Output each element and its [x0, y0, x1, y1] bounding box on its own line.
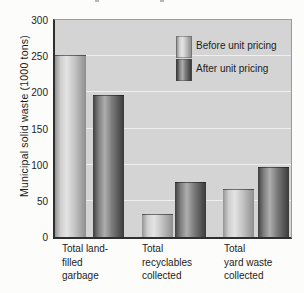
bar-after-2: [175, 182, 206, 237]
legend-swatch-before: [176, 36, 192, 58]
y-tick-label-250: 250: [18, 51, 48, 62]
bar-after-3: [258, 167, 289, 237]
cropped-text-artifact: [95, 0, 99, 2]
category-label-1: Total land- filled garbage: [62, 242, 108, 283]
bar-before-1: [55, 55, 86, 237]
legend-swatch-after: [176, 59, 192, 81]
gridline-150: [55, 128, 291, 129]
legend-label-after: After unit pricing: [196, 59, 268, 79]
category-label-2: Total recyclables collected: [142, 242, 192, 283]
category-label-3: Total yard waste collected: [224, 242, 272, 283]
gridline-200: [55, 91, 291, 92]
y-tick-label-200: 200: [18, 87, 48, 98]
bar-before-2: [142, 214, 173, 237]
gridline-50: [55, 200, 291, 201]
legend-label-before: Before unit pricing: [196, 36, 277, 56]
chart-figure: Municipal solid waste (1000 tons) 050100…: [0, 0, 304, 293]
bar-before-3: [223, 189, 254, 237]
y-tick-label-50: 50: [18, 196, 48, 207]
cropped-text-artifact: [160, 0, 164, 2]
gridline-100: [55, 164, 291, 165]
y-tick-label-150: 150: [18, 124, 48, 135]
y-tick-label-300: 300: [18, 15, 48, 26]
y-tick-label-0: 0: [18, 232, 48, 243]
bar-after-1: [93, 95, 124, 237]
y-tick-label-100: 100: [18, 160, 48, 171]
